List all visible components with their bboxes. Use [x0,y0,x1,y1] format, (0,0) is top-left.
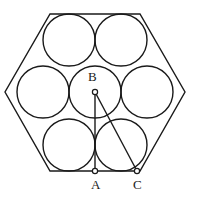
geometry-canvas [0,0,199,200]
circle-top-left [43,14,95,66]
point-label-c: C [133,178,142,191]
circle-middle-left [17,66,69,118]
circle-bottom-left [43,119,95,171]
segment-BC [95,92,137,171]
point-marker-A [92,168,97,173]
point-marker-C [134,168,139,173]
point-marker-B [92,89,97,94]
point-label-a: A [91,178,100,191]
geometry-figure: B A C [0,0,199,200]
circle-bottom-right [95,119,147,171]
circle-top-right [95,14,147,66]
point-label-b: B [88,70,97,83]
circle-middle-right [121,66,173,118]
